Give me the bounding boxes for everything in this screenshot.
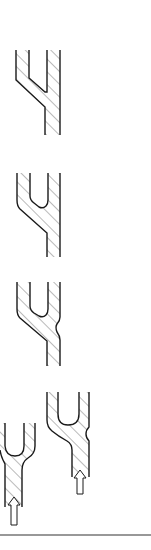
fork-figure-1 — [16, 50, 60, 135]
hatched-wall-fill — [47, 392, 89, 477]
hatched-wall-fill — [17, 173, 60, 257]
inner-u-wall-line — [58, 392, 79, 425]
inner-wall-line — [30, 282, 48, 317]
diagram-canvas — [0, 0, 151, 550]
hatched-wall-fill — [16, 50, 60, 135]
inner-u-wall-line — [5, 423, 24, 456]
inner-wall-line — [30, 173, 48, 208]
fork-figure-4b — [47, 392, 89, 494]
fork-figure-2 — [17, 173, 60, 257]
fork-figure-3 — [17, 282, 60, 366]
hatched-wall-fill — [17, 282, 60, 366]
fork-figure-4a — [0, 423, 35, 525]
